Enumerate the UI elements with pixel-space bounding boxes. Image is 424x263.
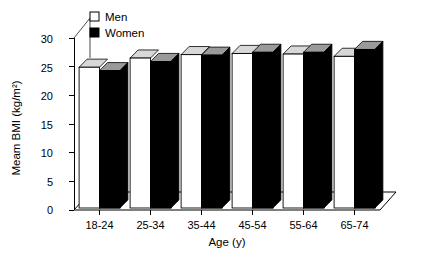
bar-side-face-women	[273, 44, 281, 208]
legend-entry-men: Men	[90, 11, 127, 23]
y-tick-0: 0	[47, 204, 53, 216]
y-tick-20: 20	[41, 90, 53, 102]
filled-square-icon	[90, 28, 99, 37]
x-axis-label-55-64: 55-64	[289, 219, 317, 231]
x-axis: 18-2425-3435-4445-5455-6465-74	[85, 210, 368, 231]
chart-legend: Men Women	[90, 11, 144, 39]
legend-label-men: Men	[105, 11, 127, 23]
y-tick-10: 10	[41, 147, 53, 159]
bar-group-women-65-74	[355, 41, 383, 208]
bar-men-25-34	[130, 58, 150, 208]
x-axis-label-25-34: 25-34	[136, 219, 164, 231]
bar-top-face-men	[130, 50, 158, 58]
bar-group-women-35-44	[202, 47, 230, 208]
bar-men-55-64	[283, 54, 303, 208]
bar-men-18-24	[79, 67, 99, 208]
bar-women-front-65-74	[355, 49, 375, 208]
bar-group-women-18-24	[100, 63, 128, 208]
y-tick-15: 15	[41, 119, 53, 131]
legend-label-women: Women	[105, 27, 144, 39]
bar-group-women-45-54	[253, 44, 281, 208]
bar-side-face-women	[171, 53, 179, 208]
bar-chart-figure: Meam BMI (kg/m²) 0 5 10 15 20 25 30	[0, 0, 424, 263]
x-axis-label-65-74: 65-74	[340, 219, 368, 231]
bar-women-front-45-54	[253, 52, 273, 208]
y-tick-5: 5	[47, 176, 53, 188]
bar-side-face-women	[222, 47, 230, 208]
bar-women-front-25-34	[151, 62, 171, 208]
legend-entry-women: Women	[90, 27, 144, 39]
x-axis-title: Age (y)	[208, 236, 245, 248]
y-tick-30: 30	[41, 33, 53, 45]
bar-women-front-18-24	[100, 71, 120, 208]
chart-canvas: Meam BMI (kg/m²) 0 5 10 15 20 25 30	[0, 0, 424, 263]
open-square-icon	[90, 12, 99, 21]
bar-group-women-25-34	[151, 53, 179, 208]
y-axis-title: Meam BMI (kg/m²)	[10, 80, 22, 175]
bar-top-face-men	[79, 59, 107, 67]
bar-side-face-women	[324, 44, 332, 208]
bars-layer	[79, 41, 383, 208]
y-tick-25: 25	[41, 62, 53, 74]
bar-women-front-55-64	[304, 52, 324, 208]
x-axis-label-18-24: 18-24	[85, 219, 113, 231]
bar-side-face-women	[120, 63, 128, 208]
bar-side-face-women	[375, 41, 383, 208]
bar-men-65-74	[334, 56, 354, 208]
bar-group-women-55-64	[304, 44, 332, 208]
y-axis-tick-labels: 0 5 10 15 20 25 30	[41, 33, 53, 216]
bar-men-45-54	[232, 53, 252, 208]
x-axis-label-45-54: 45-54	[238, 219, 266, 231]
bar-women-front-35-44	[202, 55, 222, 208]
x-axis-label-35-44: 35-44	[187, 219, 215, 231]
bar-men-35-44	[181, 55, 201, 208]
